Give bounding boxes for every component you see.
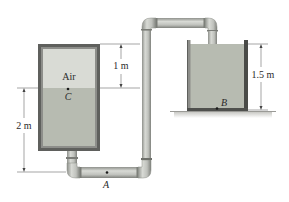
dimension-1-5m-label: 1.5 m — [252, 69, 275, 80]
air-region — [43, 49, 95, 88]
ground — [174, 112, 272, 118]
point-b-label: B — [221, 97, 227, 108]
point-a-label: A — [102, 179, 110, 190]
dimension-1m-label: 1 m — [113, 60, 129, 71]
dimension-2m-label: 2 m — [16, 120, 32, 131]
point-b-marker — [216, 107, 219, 110]
left-tank: Air C — [38, 44, 100, 151]
point-c-label: C — [65, 91, 72, 102]
right-water-region — [190, 44, 244, 109]
siphon-diagram: Air C A — [0, 0, 289, 202]
air-label: Air — [62, 71, 76, 82]
point-a-marker — [106, 171, 109, 174]
point-c-marker — [67, 88, 70, 91]
